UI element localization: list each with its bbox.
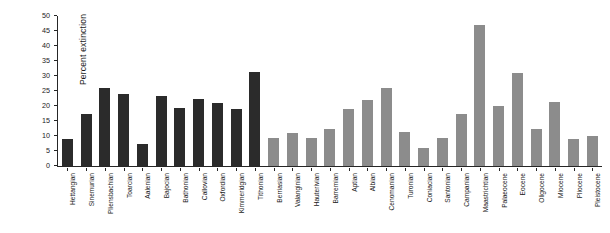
x-axis-tick bbox=[311, 168, 312, 171]
bar-slot bbox=[527, 16, 546, 166]
x-axis-label-slot: Tithonian bbox=[246, 168, 265, 232]
x-axis-label-slot: Oligocene bbox=[527, 168, 546, 232]
x-axis-label-slot: Eocene bbox=[508, 168, 527, 232]
bar bbox=[587, 136, 598, 166]
bar bbox=[399, 132, 410, 167]
x-axis-tick-labels: HettangianSinemurianPliensbachianToarcia… bbox=[58, 168, 602, 232]
y-axis-tick-label: 50 bbox=[42, 12, 50, 19]
bar-slot bbox=[96, 16, 115, 166]
bar bbox=[268, 138, 279, 167]
bar-slot bbox=[489, 16, 508, 166]
x-axis-label-slot: Campanian bbox=[452, 168, 471, 232]
bar-slot bbox=[321, 16, 340, 166]
x-axis-label-slot: Kimmeridgian bbox=[227, 168, 246, 232]
x-axis-tick bbox=[105, 168, 106, 171]
bar-slot bbox=[264, 16, 283, 166]
x-axis-label-slot: Cenomanian bbox=[377, 168, 396, 232]
x-axis-tick bbox=[142, 168, 143, 171]
bar-slot bbox=[58, 16, 77, 166]
x-axis-label-slot: Turonian bbox=[396, 168, 415, 232]
bar bbox=[568, 139, 579, 166]
x-axis-tick bbox=[124, 168, 125, 171]
bar bbox=[174, 108, 185, 167]
x-axis-tick bbox=[574, 168, 575, 171]
x-axis-label-slot: Coniacian bbox=[414, 168, 433, 232]
bar-slot bbox=[189, 16, 208, 166]
bar bbox=[324, 129, 335, 167]
y-axis-tick-label: 40 bbox=[42, 42, 50, 49]
bar-slot bbox=[358, 16, 377, 166]
y-axis-tick: 15 bbox=[54, 120, 57, 121]
y-axis-tick-label: 10 bbox=[42, 132, 50, 139]
y-axis-tick: 45 bbox=[54, 30, 57, 31]
bar-slot bbox=[152, 16, 171, 166]
x-axis-tick bbox=[461, 168, 462, 171]
bar-series bbox=[58, 16, 602, 166]
bar-slot bbox=[396, 16, 415, 166]
x-axis-label-slot: Hauterivian bbox=[302, 168, 321, 232]
bar-slot bbox=[508, 16, 527, 166]
bar bbox=[549, 102, 560, 167]
y-axis-tick-label: 30 bbox=[42, 72, 50, 79]
x-axis-label-slot: Valanginian bbox=[283, 168, 302, 232]
x-axis-tick bbox=[292, 168, 293, 171]
x-axis-label-slot: Hettangian bbox=[58, 168, 77, 232]
x-axis-tick bbox=[180, 168, 181, 171]
bar-slot bbox=[227, 16, 246, 166]
bar bbox=[156, 96, 167, 167]
x-axis-tick bbox=[236, 168, 237, 171]
x-axis-tick bbox=[330, 168, 331, 171]
bar bbox=[137, 144, 148, 167]
bar-slot bbox=[208, 16, 227, 166]
y-axis-tick: 20 bbox=[54, 105, 57, 106]
bar-slot bbox=[133, 16, 152, 166]
x-axis-label-slot: Pliocene bbox=[564, 168, 583, 232]
y-axis-tick: 35 bbox=[54, 60, 57, 61]
x-axis-tick-label: Pleistocene bbox=[595, 173, 602, 207]
x-axis-label-slot: Aalenian bbox=[133, 168, 152, 232]
x-axis-tick bbox=[217, 168, 218, 171]
x-axis-tick bbox=[555, 168, 556, 171]
y-axis-tick-label: 20 bbox=[42, 102, 50, 109]
bar-slot bbox=[302, 16, 321, 166]
x-axis-label-slot: Maastrichtian bbox=[471, 168, 490, 232]
bar bbox=[249, 72, 260, 167]
bar bbox=[212, 103, 223, 166]
bar bbox=[531, 129, 542, 167]
x-axis-tick bbox=[405, 168, 406, 171]
x-axis-tick bbox=[67, 168, 68, 171]
bar bbox=[456, 114, 467, 167]
bar-slot bbox=[583, 16, 602, 166]
x-axis-tick bbox=[255, 168, 256, 171]
bar-slot bbox=[564, 16, 583, 166]
x-axis-label-slot: Pleistocene bbox=[583, 168, 602, 232]
y-axis-tick: 5 bbox=[54, 150, 57, 151]
x-axis-tick bbox=[367, 168, 368, 171]
bar-slot bbox=[77, 16, 96, 166]
bar-slot bbox=[414, 16, 433, 166]
y-axis-tick-label: 25 bbox=[42, 87, 50, 94]
bar bbox=[99, 88, 110, 166]
bar-slot bbox=[283, 16, 302, 166]
bar-slot bbox=[171, 16, 190, 166]
x-axis-tick bbox=[499, 168, 500, 171]
bar-slot bbox=[377, 16, 396, 166]
y-axis-tick: 30 bbox=[54, 75, 57, 76]
x-axis-label-slot: Callovian bbox=[189, 168, 208, 232]
y-axis-tick: 25 bbox=[54, 90, 57, 91]
bar bbox=[418, 148, 429, 166]
x-axis-label-slot: Pliensbachian bbox=[96, 168, 115, 232]
x-axis-label-slot: Bajocian bbox=[152, 168, 171, 232]
bar bbox=[62, 139, 73, 166]
bar bbox=[512, 73, 523, 166]
x-axis-tick bbox=[424, 168, 425, 171]
bar-slot bbox=[452, 16, 471, 166]
x-axis-label-slot: Bathonian bbox=[171, 168, 190, 232]
x-axis-tick bbox=[349, 168, 350, 171]
bar-slot bbox=[546, 16, 565, 166]
x-axis-label-slot: Palaeocene bbox=[489, 168, 508, 232]
x-axis-tick bbox=[199, 168, 200, 171]
x-axis-tick bbox=[274, 168, 275, 171]
plot-area: 05101520253035404550 bbox=[57, 16, 602, 166]
y-axis-tick-label: 0 bbox=[46, 162, 50, 169]
